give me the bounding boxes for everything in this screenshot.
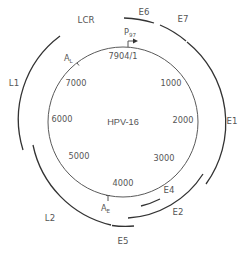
gene-label-l2: L2 <box>45 213 55 223</box>
gene-arc-e2 <box>128 174 203 218</box>
promoter-label: P97 <box>124 27 136 38</box>
genome-title: HPV-16 <box>107 117 139 127</box>
gene-label-e7: E7 <box>178 14 189 24</box>
position-label-3000: 3000 <box>154 153 175 163</box>
position-label-1000: 1000 <box>161 78 182 88</box>
gene-label-e6: E6 <box>139 7 150 17</box>
gene-label-e4: E4 <box>164 185 175 195</box>
origin-label: 7904/1 <box>109 51 138 61</box>
position-label-6000: 6000 <box>52 114 73 124</box>
gene-arc-e1 <box>187 42 226 184</box>
gene-arc-e5 <box>112 226 134 227</box>
gene-arc-e4 <box>141 199 160 206</box>
position-label-4000: 4000 <box>113 178 134 188</box>
position-label-5000: 5000 <box>69 151 90 161</box>
gene-label-e5: E5 <box>118 236 129 246</box>
gene-arc-e7 <box>160 25 186 41</box>
polyA-late-tick <box>77 63 79 66</box>
promoter-arrow-icon <box>128 39 138 48</box>
position-label-2000: 2000 <box>173 115 194 125</box>
gene-label-l1: L1 <box>9 78 19 88</box>
polyA-early-label: AE <box>101 203 111 214</box>
gene-label-e1: E1 <box>227 116 238 126</box>
position-label-7000: 7000 <box>66 78 87 88</box>
polyA-late-label: AL <box>64 53 74 64</box>
region-label-lcr: LCR <box>78 15 95 25</box>
gene-label-e2: E2 <box>173 207 184 217</box>
gene-arc-e6 <box>124 18 154 23</box>
hpv16-genome-map: HPV-16 7904/1 1000 2000 3000 4000 5000 6… <box>0 0 246 255</box>
